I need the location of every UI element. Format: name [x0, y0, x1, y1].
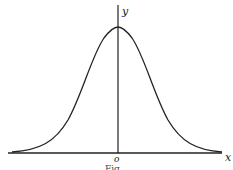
bell-curve [12, 27, 222, 152]
origin-label: o [114, 155, 119, 164]
x-axis-label: x [225, 152, 231, 163]
figure-caption: Fig. [105, 165, 123, 170]
bell-curve-figure [0, 0, 233, 170]
y-axis-label: y [122, 6, 128, 17]
